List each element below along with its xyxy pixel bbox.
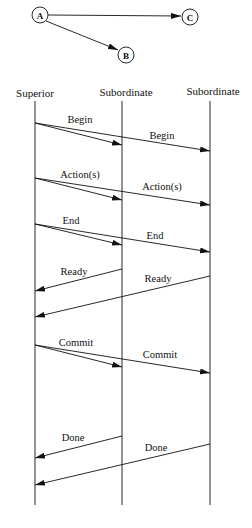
node-b: B xyxy=(118,47,134,63)
node-a-label: A xyxy=(37,11,44,21)
node-b-label: B xyxy=(123,51,129,61)
message-label: Begin xyxy=(67,114,93,125)
message-label: End xyxy=(63,215,81,226)
message-done: Done Done xyxy=(35,432,210,485)
participant-subordinate-2: Subordinate xyxy=(186,85,239,97)
message-begin: Begin Begin xyxy=(35,114,210,151)
message-label: Action(s) xyxy=(142,181,182,193)
message-actions: Action(s) Action(s) xyxy=(35,169,210,205)
edge-a-b xyxy=(46,21,118,50)
node-c-label: C xyxy=(187,13,194,23)
message-label: Commit xyxy=(59,337,94,348)
transaction-diagram: A B C Superior Subordinate Subordinate B… xyxy=(0,0,252,528)
message-label: End xyxy=(147,230,165,241)
node-c: C xyxy=(182,9,198,25)
node-a: A xyxy=(32,7,48,23)
message-label: Begin xyxy=(149,130,175,141)
message-label: Action(s) xyxy=(60,169,100,181)
participant-graph: A B C xyxy=(32,7,198,63)
message-end: End End xyxy=(35,215,210,252)
message-label: Done xyxy=(62,432,85,443)
message-label: Ready xyxy=(61,266,89,277)
message-label: Done xyxy=(145,442,168,453)
message-ready: Ready Ready xyxy=(35,266,210,317)
participant-subordinate-1: Subordinate xyxy=(99,86,152,98)
participant-superior: Superior xyxy=(16,87,54,99)
message-label: Ready xyxy=(145,273,173,284)
message-commit: Commit Commit xyxy=(35,337,210,373)
edge-a-c xyxy=(48,15,181,16)
message-label: Commit xyxy=(143,349,178,360)
